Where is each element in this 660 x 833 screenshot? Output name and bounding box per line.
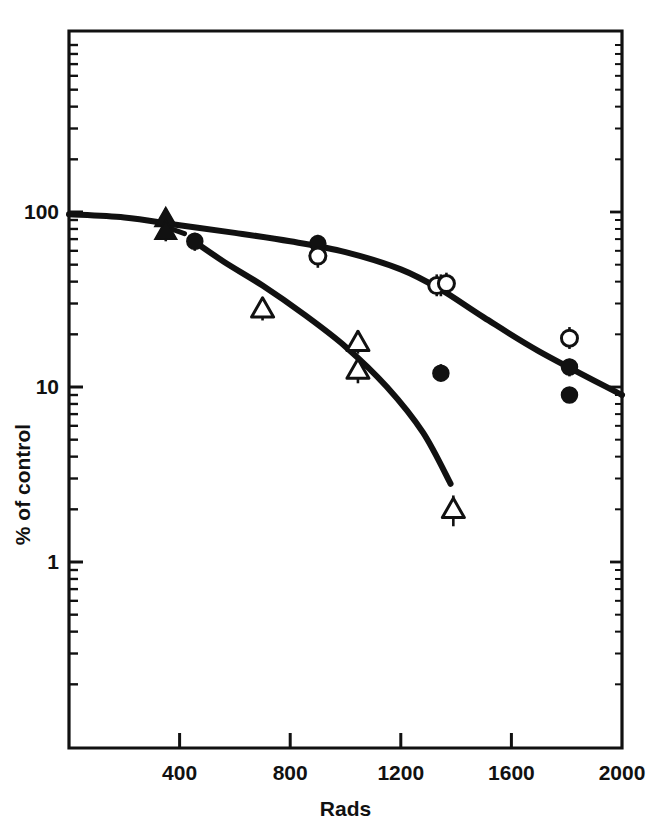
x-tick-label: 800 xyxy=(273,761,308,784)
filled-circle-marker xyxy=(187,233,203,249)
x-tick-label: 400 xyxy=(162,761,197,784)
x-axis-title: Rads xyxy=(320,797,371,820)
chart-figure: 110100400800120016002000Rads% of control xyxy=(0,0,660,833)
open-circle-marker xyxy=(561,330,577,346)
x-tick-label: 1200 xyxy=(377,761,424,784)
y-tick-label: 1 xyxy=(47,550,59,573)
open-circle-marker xyxy=(310,248,326,264)
x-tick-label: 1600 xyxy=(488,761,535,784)
survival-curve-chart: 110100400800120016002000Rads% of control xyxy=(0,0,660,833)
filled-circle-marker xyxy=(561,359,577,375)
y-tick-label: 100 xyxy=(24,200,59,223)
y-tick-label: 10 xyxy=(36,375,59,398)
filled-circle-marker xyxy=(433,365,449,381)
open-circle-marker xyxy=(438,276,454,292)
x-tick-label: 2000 xyxy=(599,761,646,784)
y-axis-title: % of control xyxy=(11,424,34,545)
filled-circle-marker xyxy=(561,387,577,403)
chart-background xyxy=(0,0,660,833)
